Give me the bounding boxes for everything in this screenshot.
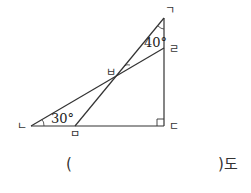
point-label-bieup: ㅂ: [106, 67, 116, 78]
right-angle-mark: [157, 119, 164, 126]
point-label-giyeok: ㄱ: [165, 5, 175, 16]
point-label-nieun: ㄴ: [17, 121, 27, 132]
answer-open-paren: (: [66, 157, 72, 172]
answer-close-suffix: )도: [218, 157, 238, 172]
angle-arc-n: [42, 120, 44, 126]
triangle-diagram: [0, 0, 251, 193]
point-label-mieum: ㅁ: [70, 129, 80, 140]
angle-arc-g: [158, 26, 164, 29]
point-label-digeut: ㄷ: [169, 121, 179, 132]
angle-label-40: 40°: [144, 36, 167, 49]
point-label-rieul: ㄹ: [169, 44, 179, 55]
angle-label-30: 30°: [51, 112, 74, 125]
